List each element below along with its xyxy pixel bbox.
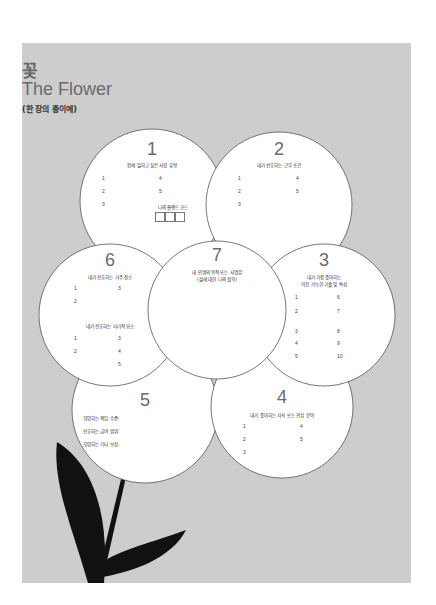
petal-1-item: 1	[102, 175, 105, 181]
title-english: The Flower	[22, 79, 411, 100]
petal-2-item: 3	[238, 201, 241, 207]
petal-1-item: 5	[159, 188, 162, 194]
flower-illustration	[22, 43, 411, 583]
worksheet-panel: 꽃 The Flower (한 장의 종이에) 1 함께 일하고 싶은 사람 유…	[22, 43, 411, 583]
petal-6-item: 4	[118, 348, 121, 354]
petal-6-item: 3	[118, 335, 121, 341]
petal-2-label: 내가 선호하는 근무 조건	[239, 162, 319, 168]
petal-4-label: 내가 좋아하는 지식 또는 관심 분야	[237, 412, 327, 418]
petal-7-label: 내 인생의 목적 또는 사명감	[177, 269, 257, 275]
petal-4-number: 4	[272, 387, 292, 408]
petal-3-item: 4	[295, 340, 298, 346]
petal-4-item: 1	[243, 423, 246, 429]
petal-6-label-geographic: 내가 선호하는 지리적 요소	[70, 323, 150, 329]
petal-1-item: 2	[102, 188, 105, 194]
petal-3-item: 7	[337, 308, 340, 314]
petal-3-item: 2	[295, 308, 298, 314]
petal-1-label: 함께 일하고 싶은 사람 유형	[112, 162, 192, 168]
petal-6-item: 5	[118, 361, 121, 367]
petal-3-label: 내가 가장 좋아하는	[284, 274, 364, 280]
holland-code-label: 나의 홀랜드 코드	[153, 204, 193, 210]
petal-3-item: 8	[337, 328, 340, 334]
subtitle: (한 장의 종이에)	[22, 103, 411, 114]
petal-2-item: 4	[296, 175, 299, 181]
petal-4-item: 4	[300, 423, 303, 429]
petal-6-item: 3	[118, 285, 121, 291]
petal-3-item: 10	[337, 353, 343, 359]
petal-7-sublabel: (삶에 대한 나의 철학)	[177, 276, 257, 282]
petal-3-item: 6	[337, 294, 340, 300]
petal-3-item: 3	[295, 328, 298, 334]
petal-5-salary-label: 선호하는 급여 범위:	[83, 428, 143, 434]
petal-5-responsibility-label: 희망하는 책임 수준:	[83, 415, 143, 421]
petal-2-item: 2	[238, 188, 241, 194]
petal-6-item: 2	[74, 298, 77, 304]
petal-6-item: 2	[74, 348, 77, 354]
holland-code-box-1[interactable]	[155, 212, 165, 222]
petal-5-number: 5	[135, 390, 155, 411]
petal-6-number: 6	[100, 250, 120, 271]
petal-3-item: 1	[295, 294, 298, 300]
petal-4-item: 3	[243, 449, 246, 455]
petal-3-sublabel: 이전 가능한 기술 및 특성	[284, 281, 364, 287]
petal-5-rewards-label: 희망하는 기타 보상:	[83, 441, 143, 447]
petal-1-number: 1	[142, 139, 162, 160]
petal-2-item: 5	[296, 188, 299, 194]
petal-6-item: 1	[74, 285, 77, 291]
petal-3-item: 9	[337, 340, 340, 346]
petal-4-item: 5	[300, 436, 303, 442]
petal-2-item: 1	[238, 175, 241, 181]
petal-1-item: 4	[159, 175, 162, 181]
petal-7-number: 7	[207, 245, 227, 266]
holland-code-box-2[interactable]	[165, 212, 175, 222]
petal-4-item: 2	[243, 436, 246, 442]
petal-3-item: 5	[295, 353, 298, 359]
holland-code-box-3[interactable]	[175, 212, 185, 222]
petal-3-number: 3	[314, 250, 334, 271]
petal-2-number: 2	[269, 139, 289, 160]
petal-6-item: 1	[74, 335, 77, 341]
petal-1-item: 3	[102, 201, 105, 207]
petal-6-label-residence: 내가 선호하는 거주 장소	[70, 274, 150, 280]
